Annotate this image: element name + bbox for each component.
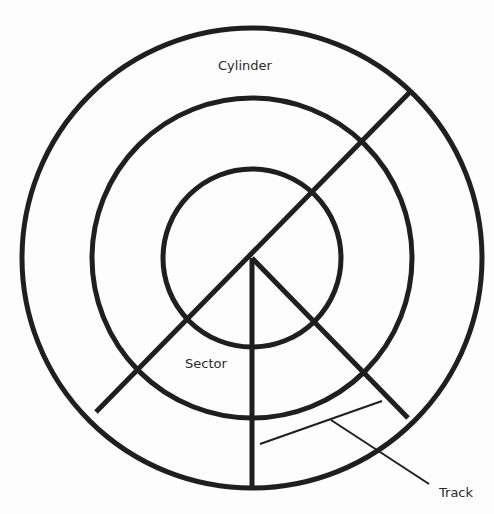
track-segment	[260, 401, 382, 444]
sector-label: Sector	[185, 356, 227, 371]
disk-geometry-svg: Cylinder Sector Track	[0, 0, 494, 514]
track-leader-line	[331, 420, 429, 484]
cylinder-label: Cylinder	[218, 58, 272, 73]
track-label: Track	[438, 485, 473, 500]
disk-diagram: Cylinder Sector Track	[0, 0, 494, 514]
right-diagonal-divider	[252, 258, 408, 418]
